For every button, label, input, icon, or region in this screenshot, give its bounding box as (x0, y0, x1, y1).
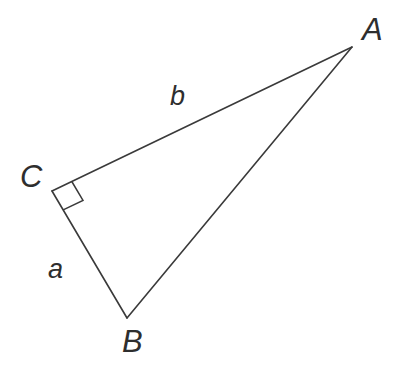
side-label-a: a (48, 256, 63, 283)
vertex-label-B: B (122, 326, 143, 357)
triangle-figure (0, 0, 396, 376)
diagram-canvas: A B C b a (0, 0, 396, 376)
vertex-label-C: C (20, 161, 42, 192)
vertex-label-A: A (362, 14, 383, 45)
side-label-b: b (170, 83, 185, 110)
